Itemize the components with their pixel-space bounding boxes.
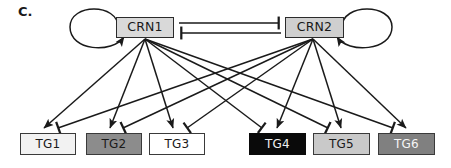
mutual-inhibition-edges [179, 23, 281, 33]
crn2-inhibits-tg2-edge [123, 39, 313, 128]
node-tg3[interactable]: TG3 [149, 133, 205, 155]
node-crn1[interactable]: CRN1 [116, 17, 174, 38]
node-crn1-label: CRN1 [127, 21, 163, 34]
node-tg3-label: TG3 [165, 138, 190, 150]
node-tg4-label: TG4 [265, 138, 290, 150]
node-tg1[interactable]: TG1 [20, 133, 76, 155]
self-loop-crn2 [337, 9, 392, 48]
node-crn2[interactable]: CRN2 [285, 17, 344, 38]
crn1-inhibits-tg4-edge [145, 39, 262, 128]
crn1-inhibits-tg5-edge [145, 39, 328, 128]
figure-panel-c: C. [0, 0, 451, 168]
crn1-activates-tg3-edge [145, 39, 173, 128]
node-tg6-label: TG6 [394, 138, 419, 150]
node-tg6[interactable]: TG6 [378, 133, 435, 155]
node-tg5-label: TG5 [329, 138, 354, 150]
crn2-inhibits-tg1-edge [58, 39, 313, 128]
crn1-activates-tg2-edge [110, 39, 145, 128]
node-crn2-label: CRN2 [297, 21, 333, 34]
crn2-inhibits-tg3-edge [187, 39, 313, 128]
crn2-self-activation-edge [337, 9, 392, 48]
crn1-inhibits-tg6-edge [145, 39, 393, 128]
node-tg4[interactable]: TG4 [249, 133, 306, 155]
node-tg2-label: TG2 [102, 138, 127, 150]
node-tg2[interactable]: TG2 [86, 133, 142, 155]
node-tg5[interactable]: TG5 [313, 133, 370, 155]
node-tg1-label: TG1 [36, 138, 61, 150]
